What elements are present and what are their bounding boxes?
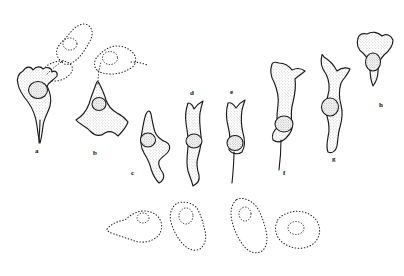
ghost-nucleus [137,213,149,223]
ghost-outline [276,211,320,248]
cell-b [76,62,128,136]
panel-label-a: a [35,148,39,155]
panel-label-c: c [131,170,134,177]
panel-label-b: b [93,150,97,157]
ghost-cell-ghost-b-tail [131,62,147,65]
ghost-outline [231,198,267,252]
ghost-cell-ghost-b-upper [95,46,136,74]
cell-drawing-canvas [0,0,404,276]
cell-h [357,32,393,86]
panel-label-d: d [190,90,194,97]
ghost-cell-ghost-bottom-1 [107,211,162,242]
ghost-cell-ghost-bottom-3 [231,198,267,252]
cell-e [227,100,246,183]
ghost-nucleus [63,38,77,50]
cell-a [17,60,64,143]
cell-trailing-process [279,140,281,170]
ghost-connector [98,62,101,84]
cell-g [321,55,350,153]
ghost-cell-ghost-a-upper [57,24,93,64]
ghost-outline [95,46,136,74]
panel-label-g: g [332,156,336,163]
ghost-cell-ghost-bottom-2 [170,202,206,250]
cell-outline-layer [17,32,393,186]
cell-f [271,62,305,170]
ghost-nucleus [179,208,193,224]
ghost-nucleus [239,207,251,221]
panel-label-e: e [230,89,233,96]
ghost-cell-ghost-bottom-4 [276,211,320,248]
cell-c [141,111,170,183]
ghost-outline [170,202,206,250]
figure-plate: abcdefgh [0,0,404,276]
panel-label-f: f [283,170,285,177]
ghost-outline [107,211,162,242]
ghost-nucleus [288,222,304,235]
ghost-outline [57,24,93,64]
cell-d [186,101,203,186]
cell-trailing-process [232,152,234,183]
ghost-outline [131,62,147,65]
ghost-nucleus [103,52,118,65]
panel-label-h: h [379,102,383,109]
